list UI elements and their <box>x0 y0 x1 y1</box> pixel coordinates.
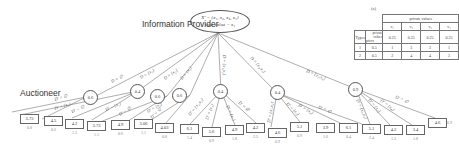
value-cell: 2 <box>383 52 402 60</box>
private-values-table: private values v₁ v₂ v₃ v₄ Types private… <box>354 14 459 60</box>
root-line-2: true value = x₄ <box>191 21 249 28</box>
svg-text:D' = {x₃,x₄}: D' = {x₃,x₄} <box>354 97 369 120</box>
leaf-node: 5.1 <box>290 122 309 132</box>
edge-label: D = {x₂} <box>162 68 179 82</box>
value-cell: 4 <box>402 52 421 60</box>
col-header: v₃ <box>421 23 440 31</box>
prob-cell: 0.5 <box>365 52 382 60</box>
leaf-sub: 0.8 <box>155 134 174 139</box>
svg-text:D' = {x₁}: D' = {x₁} <box>53 101 72 111</box>
corner-cell: private values priors <box>365 31 382 44</box>
row-label: Types <box>355 31 366 44</box>
leaf-node: 3.06 <box>134 119 153 129</box>
svg-text:D' = ∅: D' = ∅ <box>70 104 86 114</box>
auctioneer-label: Auctioneer <box>20 88 61 98</box>
prob-cell: 0.5 <box>365 44 382 52</box>
value-cell: 1 <box>440 44 459 52</box>
type-cell: 1 <box>355 44 366 52</box>
leaf-node: 6.1 <box>180 124 199 134</box>
leaf-node: 4.5 <box>44 116 63 126</box>
value-cell: 1 <box>383 44 402 52</box>
leaf-node: 4.9 <box>225 125 244 135</box>
leaf-node: 3.73 <box>87 121 106 131</box>
leaf-sub: 1.3 <box>65 130 84 135</box>
leaf-sub: 0.9 <box>447 120 459 125</box>
svg-text:D' = {x₁,x₂}: D' = {x₁,x₂} <box>186 97 205 118</box>
edge-label: D = {x₃} <box>178 65 193 81</box>
leaf-sub: 1.3 <box>384 136 403 141</box>
auctioneer-node: 0.4 <box>130 84 145 99</box>
edge-label: D = {x₃,x₄} <box>304 68 326 82</box>
leaf-sub: 2.5 <box>246 134 265 139</box>
auctioneer-node: 0.6 <box>172 88 187 103</box>
leaf-sub: 0.8 <box>20 125 39 130</box>
leaf-node: 4.2 <box>65 119 84 129</box>
svg-text:D' = {x₃}: D' = {x₃} <box>367 97 382 114</box>
table-caption: (a) <box>371 6 376 11</box>
prior-cell: 0.25 <box>421 31 440 44</box>
leaf-node: 4.2 <box>384 125 403 135</box>
leaf-node: 3.73 <box>20 114 39 124</box>
value-cell: 3 <box>402 44 421 52</box>
leaf-node: 4.6 <box>428 118 447 128</box>
auctioneer-node: 0.6 <box>150 89 165 104</box>
auctioneer-node: 0.4 <box>270 85 285 100</box>
leaf-sub: 0.9 <box>290 133 309 138</box>
svg-text:D' = {x₁}: D' = {x₁} <box>204 103 215 121</box>
leaf-sub: 1.4 <box>180 135 199 140</box>
col-header: v₄ <box>440 23 459 31</box>
leaf-node: 5.6 <box>202 127 221 137</box>
leaf-sub: 0.9 <box>268 139 287 144</box>
col-header: v₂ <box>402 23 421 31</box>
root-edge-labels: D = ∅ D = {x₁} D = {x₂} D = {x₃} D = {x₁… <box>109 54 326 84</box>
leaf-sub: 0.4 <box>339 134 358 139</box>
prior-cell: 0.25 <box>402 31 421 44</box>
leaf-sub: 2.4 <box>362 135 381 140</box>
svg-text:D' = ∅: D' = ∅ <box>394 94 410 104</box>
prior-cell: 0.25 <box>383 31 402 44</box>
svg-text:D' = ∅: D' = ∅ <box>117 105 133 117</box>
value-cell: 3 <box>421 44 440 52</box>
leaf-node: 3.9 <box>316 123 335 133</box>
svg-text:D' = {x₂}: D' = {x₂} <box>225 103 237 121</box>
prior-cell: 0.25 <box>440 31 459 44</box>
leaf-node: 4.6 <box>268 128 287 138</box>
leaf-sub: 1.1 <box>134 130 153 135</box>
table-header: private values <box>383 15 459 23</box>
leaf-node: 4.9 <box>111 120 130 130</box>
leaf-node: 4.03 <box>155 123 174 133</box>
edge-label: D = {x₂,x₃} <box>248 55 267 75</box>
leaf-node: 4.2 <box>246 123 265 133</box>
edge-label: D = {x₁,x₂} <box>221 54 227 76</box>
type-cell: 2 <box>355 52 366 60</box>
leaf-sub: 1.8 <box>406 136 425 141</box>
leaf-sub: 0.6 <box>44 127 63 132</box>
svg-text:D' = {x₂,x₃}: D' = {x₂,x₃} <box>266 101 276 124</box>
leaf-sub: 1.6 <box>316 134 335 139</box>
auctioneer-node: 0.9 <box>348 82 363 97</box>
col-header: v₁ <box>383 23 402 31</box>
leaf-sub: 1.1 <box>87 132 106 137</box>
auctioneer-node: 0.6 <box>83 90 98 105</box>
leaf-node: 6.1 <box>339 123 358 133</box>
auctioneer-node: 0.4 <box>213 84 228 99</box>
svg-text:D' = ∅: D' = ∅ <box>237 99 252 113</box>
root-line-1: X' = {x₁, x₂, x₃, x₄} <box>191 14 249 21</box>
leaf-sub: 0.9 <box>202 138 221 143</box>
leaf-node: 3.4 <box>406 125 425 135</box>
root-node: X' = {x₁, x₂, x₃, x₄} true value = x₄ <box>190 10 250 33</box>
value-cell: 3 <box>440 52 459 60</box>
leaf-node: 5.1 <box>362 124 381 134</box>
value-cell: 4 <box>421 52 440 60</box>
leaf-sub: 1.8 <box>225 136 244 141</box>
leaf-sub: 0.6 <box>111 131 130 136</box>
